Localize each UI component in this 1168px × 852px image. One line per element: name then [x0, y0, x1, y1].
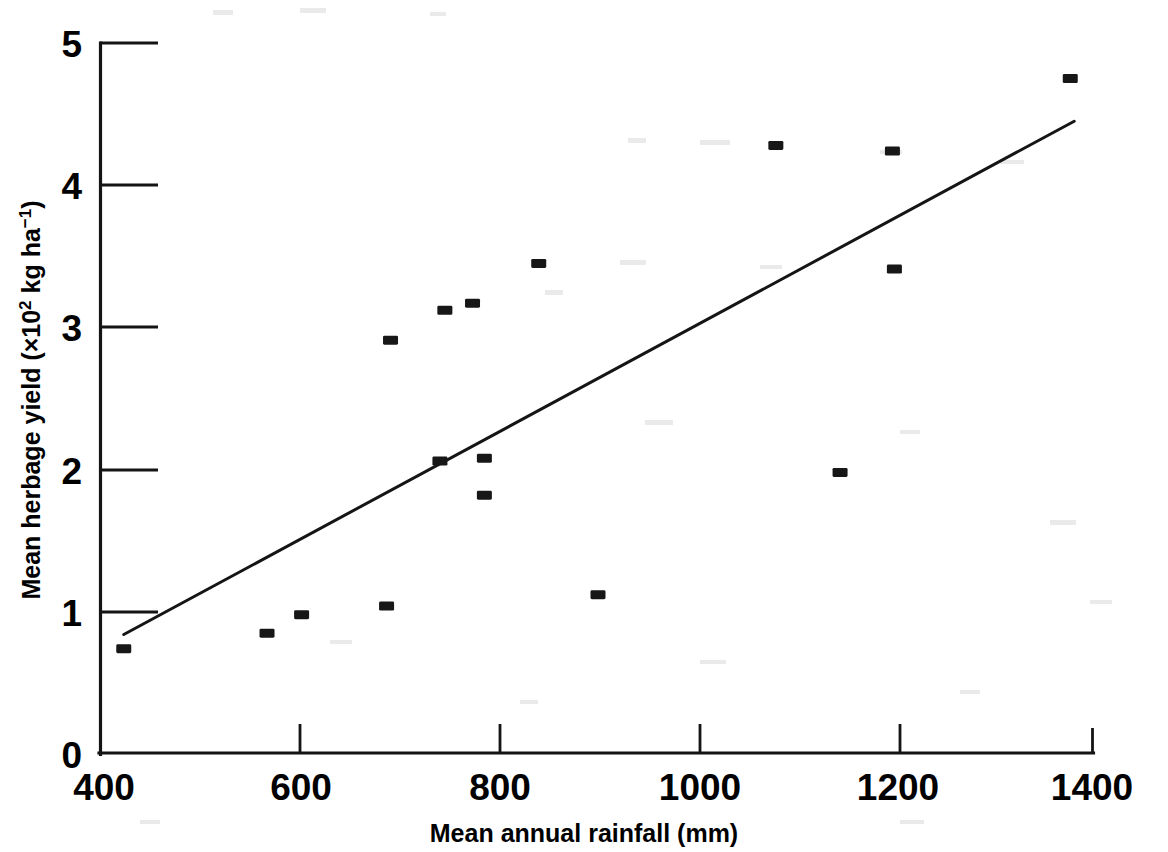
axis-lines [99, 43, 1094, 755]
y-axis-title-mid: kg ha [17, 227, 45, 300]
data-point-marker [437, 306, 452, 315]
data-point-group [116, 74, 1078, 653]
y-tick-label-5: 5 [61, 24, 82, 65]
regression-trendline [124, 121, 1074, 634]
data-point-marker [294, 610, 309, 619]
x-tick-labels: 400 600 800 1000 1200 1400 [73, 767, 1133, 808]
y-axis-title-lead: Mean herbage yield (×10 [17, 310, 45, 600]
data-point-marker [1063, 74, 1078, 83]
data-point-marker [477, 491, 492, 500]
y-tick-label-2: 2 [61, 451, 82, 492]
y-axis-title-tail: ) [17, 200, 45, 208]
data-point-marker [465, 299, 480, 308]
y-tick-label-3: 3 [61, 308, 82, 349]
y-axis-title: Mean herbage yield (×102 kg ha−1) [16, 200, 45, 599]
svg-text:Mean herbage yield (×102 kg ha: Mean herbage yield (×102 kg ha−1) [16, 200, 45, 599]
x-axis-title: Mean annual rainfall (mm) [430, 819, 738, 847]
y-axis-title-exponent: 2 [16, 300, 35, 309]
data-point-marker [591, 590, 606, 599]
x-tick-label-600: 600 [270, 767, 332, 808]
data-point-marker [260, 629, 275, 638]
data-point-marker [379, 602, 394, 611]
data-point-marker [768, 141, 783, 150]
data-point-marker [833, 468, 848, 477]
data-point-marker [531, 259, 546, 268]
data-point-marker [383, 336, 398, 345]
x-axis-ticks [300, 724, 900, 753]
data-point-marker [887, 265, 902, 274]
paper-noise [140, 8, 1112, 824]
data-point-marker [432, 457, 447, 466]
x-tick-label-1000: 1000 [659, 767, 741, 808]
x-tick-label-1400: 1400 [1051, 767, 1133, 808]
data-point-marker [477, 454, 492, 463]
scatter-plot: 5 4 3 2 1 0 400 600 800 1000 1200 1400 M… [0, 0, 1168, 852]
data-point-marker [116, 644, 131, 653]
x-tick-label-1200: 1200 [857, 767, 939, 808]
figure-container: 5 4 3 2 1 0 400 600 800 1000 1200 1400 M… [0, 0, 1168, 852]
x-tick-label-400: 400 [73, 767, 135, 808]
y-tick-label-4: 4 [61, 166, 82, 207]
x-tick-label-800: 800 [469, 767, 531, 808]
y-tick-label-1: 1 [61, 593, 82, 634]
data-point-marker [885, 147, 900, 156]
y-axis-ticks [100, 43, 158, 612]
y-axis-title-superscript-minus-one: −1 [16, 209, 35, 228]
y-tick-labels: 5 4 3 2 1 0 [61, 24, 82, 776]
